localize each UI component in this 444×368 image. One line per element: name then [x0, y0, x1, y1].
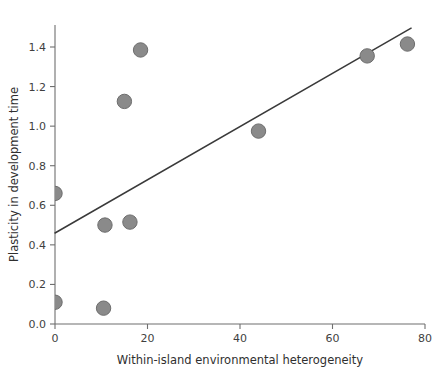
y-axis-title: Plasticity in development time [7, 87, 21, 262]
y-tick-label: 0.6 [29, 199, 47, 212]
data-point [133, 43, 147, 57]
data-point [360, 49, 374, 63]
data-point [96, 301, 110, 315]
y-tick-label: 0.8 [29, 160, 47, 173]
data-point [400, 37, 414, 51]
x-tick-label: 60 [326, 332, 340, 345]
x-tick-label: 0 [52, 332, 59, 345]
y-axis-tick-labels: 0.00.20.40.60.81.01.21.4 [29, 41, 47, 331]
trend-line [55, 28, 411, 233]
y-axis-ticks [50, 47, 55, 324]
y-tick-label: 1.0 [29, 120, 47, 133]
data-point [123, 215, 137, 229]
scatter-plot-figure: 0.00.20.40.60.81.01.21.4 020406080 Withi… [0, 0, 444, 368]
data-point [251, 124, 265, 138]
x-axis-title: Within-island environmental heterogeneit… [117, 353, 363, 367]
x-axis-ticks [55, 324, 425, 329]
data-point [48, 295, 62, 309]
axes [50, 25, 425, 329]
plot-canvas: 0.00.20.40.60.81.01.21.4 020406080 Withi… [0, 0, 444, 368]
data-point [98, 218, 112, 232]
y-tick-label: 0.2 [29, 278, 47, 291]
y-tick-label: 1.2 [29, 81, 47, 94]
x-tick-label: 20 [141, 332, 155, 345]
data-point [117, 94, 131, 108]
y-tick-label: 0.0 [29, 318, 47, 331]
x-tick-label: 40 [233, 332, 247, 345]
x-tick-label: 80 [418, 332, 432, 345]
y-tick-label: 0.4 [29, 239, 47, 252]
x-axis-tick-labels: 020406080 [52, 332, 433, 345]
data-points [48, 37, 415, 316]
y-tick-label: 1.4 [29, 41, 47, 54]
data-point [48, 186, 62, 200]
